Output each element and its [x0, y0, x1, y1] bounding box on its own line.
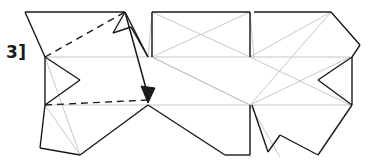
outline-bottom-right-spike-a	[280, 135, 318, 155]
origami-step-figure: 3]	[0, 0, 371, 167]
outline-bottom-left-rise	[80, 105, 148, 155]
fold-line	[250, 12, 331, 105]
outline-left-lower-slant	[40, 105, 45, 148]
origami-diagram-svg	[0, 0, 371, 167]
fold-line	[45, 105, 80, 155]
outline-left-notch-upper	[45, 57, 80, 80]
outline-bottom-center-fall	[148, 105, 225, 155]
fold-line	[152, 57, 250, 105]
outline-right-notch-upper	[318, 57, 352, 80]
dashed-guide-upper	[45, 12, 125, 57]
outline-bottom-left-edge	[40, 148, 80, 155]
fold-line	[45, 57, 80, 155]
outline-bottom-right-spike-b	[268, 135, 280, 152]
fold-line	[250, 12, 331, 57]
fold-arrow-shaft	[125, 12, 147, 92]
outline-left-notch-lower	[45, 80, 80, 105]
step-number-label: 3]	[6, 44, 27, 61]
outline-group	[25, 12, 360, 155]
fold-lines-group	[45, 12, 352, 157]
outline-right-bevel	[352, 45, 360, 57]
outline-right-upper-slant	[331, 12, 360, 45]
outline-left-upper-slant	[25, 12, 45, 57]
outline-right-lower-slant	[318, 105, 352, 155]
outline-bottom-right-spike-c	[252, 105, 268, 152]
outline-top-flap-d	[125, 12, 148, 57]
